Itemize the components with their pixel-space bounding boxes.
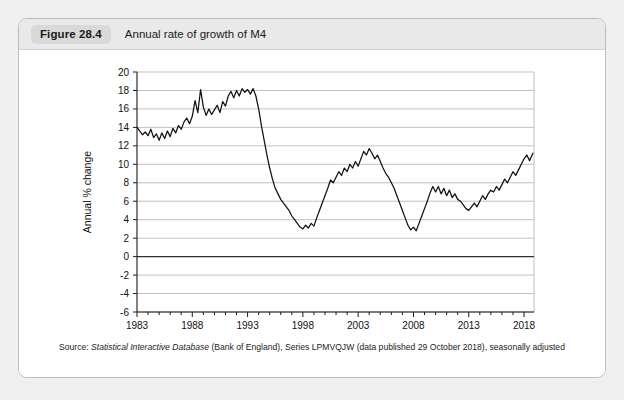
svg-text:2018: 2018 bbox=[513, 320, 536, 331]
source-database-name: Statistical Interactive Database bbox=[91, 342, 209, 352]
svg-text:-6: -6 bbox=[120, 307, 129, 318]
svg-text:2: 2 bbox=[123, 233, 129, 244]
svg-text:10: 10 bbox=[118, 159, 130, 170]
svg-text:0: 0 bbox=[123, 251, 129, 262]
figure-title: Annual rate of growth of M4 bbox=[125, 28, 266, 40]
y-tick-labels: -6-4-202468101214161820 bbox=[118, 67, 130, 318]
svg-text:2003: 2003 bbox=[347, 320, 370, 331]
svg-text:1983: 1983 bbox=[126, 320, 149, 331]
svg-text:20: 20 bbox=[118, 67, 130, 78]
x-axis bbox=[137, 312, 534, 317]
x-tick-labels: 19831988199319982003200820132018 bbox=[126, 320, 536, 331]
svg-text:6: 6 bbox=[123, 196, 129, 207]
figure-number-badge: Figure 28.4 bbox=[31, 25, 111, 44]
svg-text:18: 18 bbox=[118, 85, 130, 96]
svg-text:-2: -2 bbox=[120, 270, 129, 281]
figure-header: Figure 28.4 Annual rate of growth of M4 bbox=[19, 19, 605, 50]
svg-text:-4: -4 bbox=[120, 288, 129, 299]
chart-plot-area: -6-4-202468101214161820 1983198819931998… bbox=[19, 50, 606, 340]
svg-text:4: 4 bbox=[123, 214, 129, 225]
source-prefix: Source: bbox=[59, 342, 91, 352]
svg-text:1998: 1998 bbox=[292, 320, 315, 331]
y-axis-title: Annual % change bbox=[81, 151, 93, 233]
svg-text:Annual % change: Annual % change bbox=[81, 151, 93, 233]
figure-body: -6-4-202468101214161820 1983198819931998… bbox=[19, 50, 605, 378]
svg-text:12: 12 bbox=[118, 140, 130, 151]
svg-text:1988: 1988 bbox=[181, 320, 204, 331]
svg-text:16: 16 bbox=[118, 103, 130, 114]
figure-panel: Figure 28.4 Annual rate of growth of M4 … bbox=[18, 18, 606, 378]
data-series-m4 bbox=[137, 89, 533, 231]
svg-text:2008: 2008 bbox=[402, 320, 425, 331]
y-axis bbox=[133, 72, 137, 312]
source-details: (Bank of England), Series LPMVQJW (data … bbox=[209, 342, 565, 352]
source-note: Source: Statistical Interactive Database… bbox=[19, 342, 605, 353]
svg-text:1993: 1993 bbox=[236, 320, 259, 331]
svg-text:8: 8 bbox=[123, 177, 129, 188]
line-chart: -6-4-202468101214161820 1983198819931998… bbox=[19, 50, 606, 340]
svg-text:2013: 2013 bbox=[458, 320, 481, 331]
svg-text:14: 14 bbox=[118, 122, 130, 133]
